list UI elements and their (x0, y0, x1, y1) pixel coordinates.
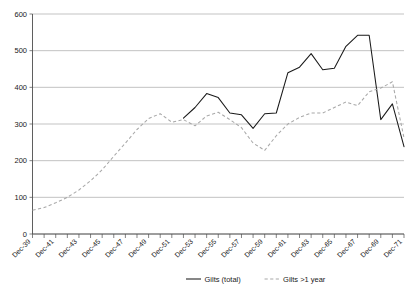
y-tick-label: 200 (14, 156, 27, 165)
y-tick-label: 400 (14, 83, 27, 92)
x-tick-label: Dec-45 (80, 238, 101, 259)
x-axis-tick-marks (33, 234, 405, 238)
x-tick-label: Dec-55 (197, 238, 218, 259)
y-tick-label: 300 (14, 120, 27, 129)
x-tick-label: Dec-47 (104, 238, 125, 259)
x-tick-label: Dec-65 (313, 238, 334, 259)
x-tick-label: Dec-67 (336, 238, 357, 259)
y-tick-label: 100 (14, 193, 27, 202)
x-tick-label: Dec-69 (359, 238, 380, 259)
x-tick-label: Dec-57 (220, 238, 241, 259)
legend-label: Gilts (total) (205, 275, 242, 284)
x-tick-label: Dec-59 (243, 238, 264, 259)
x-tick-label: Dec-53 (173, 238, 194, 259)
legend-label: Gilts >1 year (283, 275, 326, 284)
gridlines-group (30, 14, 405, 234)
x-tick-label: Dec-43 (57, 238, 78, 259)
y-tick-label: 600 (14, 10, 27, 19)
x-tick-label: Dec-51 (150, 238, 171, 259)
chart-canvas: 0100200300400500600 Dec-39Dec-41Dec-43De… (0, 0, 412, 293)
x-tick-label: Dec-41 (34, 238, 55, 259)
x-tick-label: Dec-63 (289, 238, 310, 259)
x-tick-label: Dec-49 (127, 238, 148, 259)
x-tick-label: Dec-39 (11, 238, 32, 259)
x-axis-tick-labels: Dec-39Dec-41Dec-43Dec-45Dec-47Dec-49Dec-… (11, 238, 403, 259)
x-tick-label: Dec-61 (266, 238, 287, 259)
series-line-gilts-1-year (33, 82, 405, 210)
chart-legend: Gilts (total)Gilts >1 year (186, 275, 326, 284)
y-tick-label: 500 (14, 46, 27, 55)
gilts-line-chart: 0100200300400500600 Dec-39Dec-41Dec-43De… (0, 0, 412, 293)
y-axis-tick-labels: 0100200300400500600 (14, 10, 27, 239)
data-series-group (33, 35, 405, 210)
x-tick-label: Dec-71 (382, 238, 403, 259)
